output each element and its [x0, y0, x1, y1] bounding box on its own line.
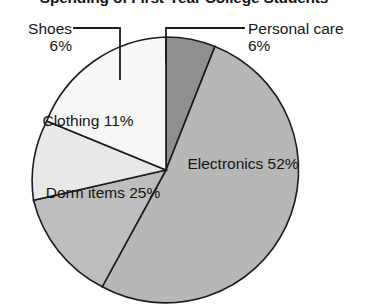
pie-label-shoes-name: Shoes — [28, 20, 72, 37]
pie-label-dorm-items-name: Dorm items — [46, 184, 125, 201]
pie-label-personal-care-name: Personal care — [248, 20, 344, 37]
pie-chart: Spending of First-Year College Students … — [0, 0, 368, 307]
pie-label-dorm-items: Dorm items 25% — [42, 184, 164, 202]
pie-label-shoes-percent: 6% — [6, 37, 72, 54]
pie-label-clothing: Clothing 11% — [38, 112, 138, 130]
pie-label-electronics-name: Electronics — [187, 155, 263, 172]
pie-label-electronics-percent: 52% — [268, 155, 299, 172]
pie-label-shoes: Shoes 6% — [6, 20, 72, 55]
pie-label-personal-care: Personal care 6% — [248, 20, 344, 55]
pie-label-clothing-percent: 11% — [104, 112, 134, 129]
pie-label-dorm-items-percent: 25% — [129, 184, 160, 201]
pie-label-clothing-name: Clothing — [42, 112, 99, 129]
pie-label-electronics: Electronics 52% — [184, 155, 302, 173]
pie-label-personal-care-percent: 6% — [248, 37, 344, 54]
